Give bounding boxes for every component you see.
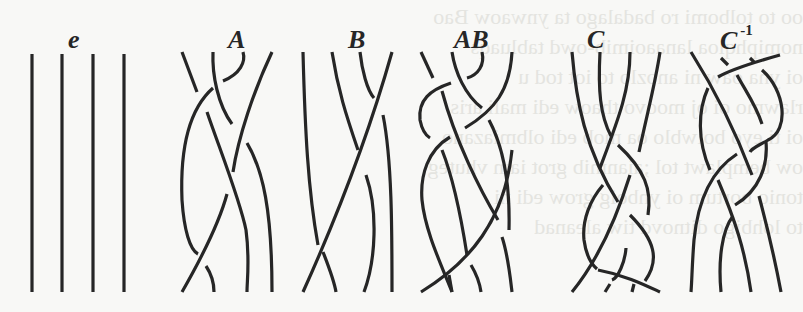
braid-strand-segment (223, 52, 244, 81)
braid-strand-segment (630, 215, 653, 281)
braid-strand-segment (206, 266, 214, 292)
braid-strand-segment (632, 284, 634, 292)
braid-strand-segment (750, 70, 782, 152)
braid-label-text: C (720, 26, 737, 55)
braid-label-text: e (68, 25, 80, 54)
braid-label-text: C (587, 25, 604, 54)
braid-strand-segment (452, 52, 482, 108)
braid-strand-segment (323, 252, 336, 292)
braid-label-a: A (228, 27, 245, 53)
braid-strand-segment (303, 52, 318, 245)
braid-strand-segment (442, 150, 467, 255)
braid-strand-segment (572, 52, 618, 202)
braid-strand-segment (303, 52, 392, 292)
braid-strand-segment (639, 52, 660, 152)
braid-label-c-inv: C-1 (720, 27, 753, 54)
braid-label-b: B (348, 27, 365, 53)
braid-strand-segment (502, 237, 512, 292)
braid-label-text: B (348, 25, 365, 54)
braid-label-c: C (587, 27, 604, 53)
braid-strand-segment (467, 52, 483, 78)
braid-strand-segment (360, 52, 374, 98)
braid-strand-segment (720, 216, 733, 292)
braid-strand-segment (383, 115, 392, 292)
braid-strand-segment (207, 112, 248, 292)
braid-strand-segment (618, 145, 649, 215)
braid-diagrams-canvas (0, 0, 803, 312)
braid-strand-segment (471, 265, 481, 292)
braid-ab (420, 52, 512, 292)
braid-a (182, 52, 272, 292)
braid-strand-segment (421, 150, 512, 292)
braid-strand-segment (182, 52, 197, 92)
braid-strand-segment (364, 175, 374, 292)
braid-label-text: A (228, 25, 245, 54)
braid-strand-segment (584, 185, 603, 269)
braid-e (32, 54, 124, 292)
braid-strand-segment (599, 52, 611, 136)
braid-strand-segment (421, 52, 433, 78)
braid-strand-segment (700, 88, 710, 170)
braid-strand-segment (332, 52, 358, 150)
braid-strand-segment (247, 143, 272, 292)
braid-strand-segment (718, 55, 780, 77)
braid-c (572, 52, 660, 292)
braid-strand-segment (737, 75, 762, 124)
braid-strand-segment (759, 196, 781, 292)
braid-strand-segment (721, 58, 728, 65)
braid-strand-segment (605, 284, 610, 292)
braid-c-inv (691, 52, 782, 292)
braid-label-e: e (68, 27, 80, 53)
braid-figure: oo to tolbomi ro badalago ta ynwaow Baon… (0, 0, 803, 312)
braid-strand-segment (465, 52, 512, 128)
braid-label-exponent: -1 (740, 22, 753, 38)
braid-label-ab: AB (454, 27, 489, 53)
braid-strand-segment (213, 52, 232, 124)
braid-strand-segment (489, 120, 509, 230)
braid-label-text: AB (454, 25, 489, 54)
braid-b (303, 52, 392, 292)
